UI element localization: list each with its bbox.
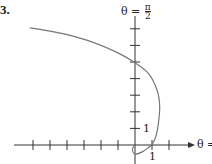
horizontal-axis-label: θ = — [197, 138, 212, 151]
vertical-axis-label: θ = π 2 — [121, 3, 151, 20]
y-tick-label: 1 — [143, 122, 150, 135]
polar-graph — [0, 0, 212, 164]
x-tick-label: 1 — [149, 150, 156, 163]
pi-over-2-fraction: π 2 — [145, 3, 151, 20]
theta-equals: θ = — [121, 5, 140, 18]
figure-number: 3. — [0, 2, 10, 18]
fraction-denominator: 2 — [145, 12, 151, 20]
arrow-right-icon — [188, 142, 195, 148]
polar-curve — [30, 28, 160, 154]
